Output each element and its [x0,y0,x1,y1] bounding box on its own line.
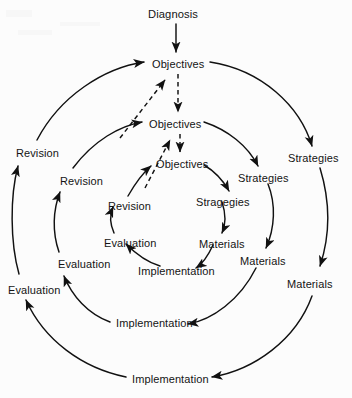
node-middle-strategies: Strategies [238,172,289,184]
node-outer-objectives: Objectives [152,58,204,70]
arrow-outer-evaluation-revision [12,166,19,274]
node-outer-materials: Materials [287,278,333,290]
node-inner-strategies: Stragegies [196,196,250,208]
arrow-outer-implementation-evaluation [26,300,126,377]
node-inner-objectives: Objectives [156,158,208,170]
arrow-middle-strategies-materials [266,184,273,248]
node-inner-materials: Materials [199,238,245,250]
node-outer-implementation: Implementation [132,373,209,385]
node-middle-materials: Materials [240,255,286,267]
node-middle-evaluation: Evaluation [58,258,110,270]
node-inner-revision: Revision [108,200,151,212]
arrow-outer-materials-implementation [212,296,312,377]
arrow-outer-objectives-strategies [210,62,312,146]
arrow-middle-implementation-evaluation [64,276,110,322]
node-middle-implementation: Implementation [116,317,193,329]
node-outer-evaluation: Evaluation [8,284,60,296]
node-inner-implementation: Implementation [138,265,215,277]
arrow-middle-evaluation-revision [54,192,60,252]
node-inner-evaluation: Evaluation [104,237,156,249]
node-outer-revision: Revision [16,147,59,159]
node-middle-revision: Revision [60,175,103,187]
node-middle-objectives: Objectives [149,118,201,130]
arrow-outer-revision-objectives [37,62,144,140]
node-diagnosis: Diagnosis [148,8,198,20]
arrow-inner-revision-objectives [128,166,151,196]
node-outer-strategies: Strategies [288,152,339,164]
arrow-middle-revision-objectives [73,122,142,168]
curriculum-cycle-diagram: Diagnosis Objectives Strategies Material… [0,0,352,398]
arrow-outer-strategies-materials [320,168,328,266]
arrow-middle-objectives-strategies [204,122,258,166]
